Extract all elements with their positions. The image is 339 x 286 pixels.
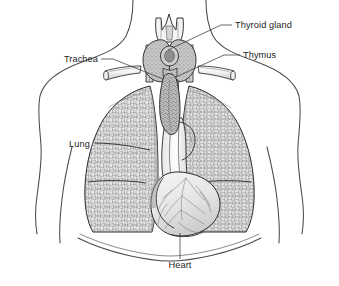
label-thymus: Thymus: [243, 50, 277, 60]
thymus: [160, 74, 180, 135]
larynx: [156, 14, 184, 42]
anatomy-diagram: Thyroid gland Thymus Trachea Lung Heart: [0, 0, 339, 286]
anatomy-illustration: Thyroid gland Thymus Trachea Lung Heart: [0, 0, 339, 286]
label-trachea: Trachea: [64, 54, 99, 64]
label-thyroid-gland: Thyroid gland: [235, 20, 292, 30]
label-lung: Lung: [69, 139, 90, 149]
label-heart: Heart: [169, 260, 192, 270]
